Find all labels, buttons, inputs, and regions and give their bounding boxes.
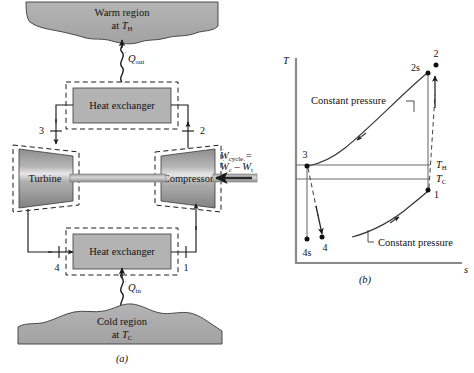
- state-point-4: [320, 235, 325, 240]
- warm-region-line1: Warm region: [95, 7, 151, 18]
- reference-label-TH: TH: [436, 159, 447, 171]
- process-1-to-2-dashed: [429, 95, 435, 188]
- state-point-4s: [305, 237, 310, 242]
- turbine-compressor-shaft: [70, 174, 166, 182]
- q-in-arrow-group: Qin ·: [121, 268, 142, 308]
- state-point-2: [434, 63, 439, 68]
- q-out-dot-accent: ·: [124, 49, 126, 56]
- annotation-constant-pressure-upper: Constant pressure: [311, 95, 414, 112]
- q-out-label: Qout: [128, 53, 144, 65]
- turbine-group: Turbine: [13, 145, 79, 212]
- stream-4-pipe: [28, 209, 52, 252]
- stream-label-4: 4: [55, 262, 60, 273]
- work-line2-dot-accent: ·: [222, 157, 224, 164]
- panel-b-caption: (b): [359, 274, 372, 286]
- stream-label-1: 1: [184, 262, 189, 273]
- stream-label-2: 2: [200, 125, 205, 136]
- annotation-lower-text: Constant pressure: [378, 237, 453, 248]
- ts-y-axis-label: T: [283, 55, 290, 66]
- state-point-1: [426, 188, 431, 193]
- work-input-group: Wcycle = · Wc – Wt · ·: [213, 146, 257, 183]
- state-label-4: 4: [323, 242, 328, 253]
- annotation-upper-leader: [406, 101, 414, 112]
- heat-exchanger-top-label: Heat exchanger: [89, 100, 155, 111]
- state-label-2s: 2s: [411, 62, 420, 73]
- state-label-2: 2: [434, 48, 439, 59]
- annotation-constant-pressure-lower: Constant pressure: [368, 230, 453, 248]
- q-in-label: Qin: [128, 282, 141, 294]
- state-label-4s: 4s: [303, 247, 312, 258]
- process-4-to-1-curve: [352, 191, 428, 237]
- work-line1-dot-accent: ·: [222, 146, 224, 153]
- ts-x-axis-label: s: [464, 264, 468, 275]
- q-in-dot-accent: ·: [124, 278, 126, 285]
- stream-label-3: 3: [39, 125, 44, 136]
- stream-1-pipe: [171, 226, 196, 252]
- turbine-label: Turbine: [29, 173, 62, 184]
- heat-exchanger-bottom-group: Heat exchanger: [66, 228, 178, 275]
- heat-exchanger-top-group: Heat exchanger: [66, 82, 178, 129]
- panel-a-caption: (a): [116, 353, 129, 365]
- stream-3-pipe: [56, 105, 73, 123]
- q-out-wavy-line: [121, 45, 124, 82]
- compressor-label: Compressor: [163, 173, 214, 184]
- stream-2-piping: 2: [171, 105, 205, 148]
- figure-container: Warm region at TH Qout · Heat exchanger: [0, 0, 474, 373]
- stream-2-pipe-upper: [171, 105, 188, 126]
- panel-b-ts-diagram: T s TH TC: [283, 48, 468, 286]
- state-point-2s: [426, 71, 431, 76]
- state-label-1: 1: [434, 189, 439, 200]
- process-2s-to-3-curve: [308, 74, 426, 166]
- stream-1-piping: 1: [171, 204, 196, 273]
- work-label-line2: Wc – Wt: [220, 161, 253, 173]
- q-out-arrow-group: Qout ·: [121, 40, 145, 82]
- state-label-3: 3: [303, 149, 308, 160]
- work-line2-dot-accent-b: ·: [243, 157, 245, 164]
- heat-exchanger-bottom-label: Heat exchanger: [89, 246, 155, 257]
- warm-region-block: Warm region at TH: [26, 2, 218, 44]
- process-3-to-4-arrow: [316, 206, 322, 234]
- reference-label-TC: TC: [436, 173, 447, 185]
- panel-a-schematic: Warm region at TH Qout · Heat exchanger: [13, 2, 257, 365]
- state-point-3: [305, 164, 310, 169]
- thermodynamic-figure: Warm region at TH Qout · Heat exchanger: [0, 0, 474, 373]
- annotation-upper-text: Constant pressure: [311, 95, 386, 106]
- cold-region-block: Cold region at TC: [18, 304, 222, 344]
- stream-3-piping: 3: [39, 105, 73, 144]
- cold-region-line1: Cold region: [97, 316, 148, 327]
